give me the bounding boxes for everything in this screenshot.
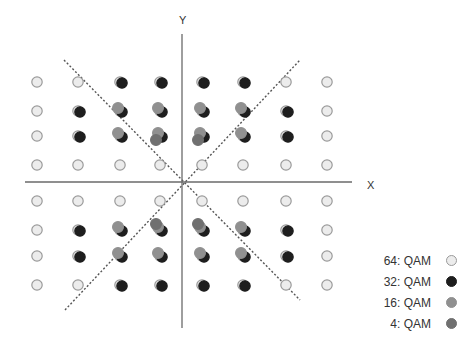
y-axis-label: Y [179,14,186,26]
point-32qam [75,252,85,262]
point-4qam [193,219,204,230]
point-32qam [199,281,209,291]
point-16qam [153,103,164,114]
point-64qam [322,196,332,206]
point-64qam [32,280,42,290]
point-64qam [115,160,125,170]
point-16qam [113,222,124,233]
point-64qam [322,280,332,290]
point-64qam [322,106,332,116]
point-64qam [322,225,332,235]
point-32qam [157,281,167,291]
point-32qam [283,226,293,236]
point-64qam [322,251,332,261]
legend-label: 64: QAM [384,254,431,268]
point-64qam [322,77,332,87]
point-16qam [236,248,247,259]
x-axis-label: X [367,179,374,191]
legend-item-4qam: 4: QAM [355,317,465,333]
point-32qam [283,132,293,142]
point-64qam [281,77,291,87]
point-64qam [281,280,291,290]
point-64qam [197,160,207,170]
point-64qam [73,280,83,290]
point-32qam [283,107,293,117]
point-64qam [32,196,42,206]
point-64qam [155,160,165,170]
point-4qam [151,219,162,230]
point-64qam [281,196,291,206]
point-16qam [195,248,206,259]
legend-item-64qam: 64: QAM [355,254,465,270]
point-32qam [199,78,209,88]
point-32qam [75,107,85,117]
legend-marker-16qam [446,297,457,308]
point-32qam [117,78,127,88]
point-64qam [32,251,42,261]
point-64qam [73,160,83,170]
point-64qam [115,196,125,206]
legend-label: 16: QAM [384,296,431,310]
point-64qam [155,196,165,206]
point-32qam [240,281,250,291]
point-16qam [236,128,247,139]
point-4qam [193,135,204,146]
point-32qam [157,78,167,88]
legend-item-16qam: 16: QAM [355,296,465,312]
legend-label: 4: QAM [390,317,431,331]
point-64qam [238,196,248,206]
point-64qam [32,77,42,87]
constellation-plot [0,0,476,347]
point-64qam [32,225,42,235]
legend-label: 32: QAM [384,275,431,289]
point-64qam [322,131,332,141]
point-4qam [151,135,162,146]
point-64qam [197,196,207,206]
legend-marker-64qam [446,255,457,266]
point-64qam [32,106,42,116]
legend-marker-32qam [446,276,457,287]
point-16qam [113,103,124,114]
point-64qam [73,77,83,87]
point-16qam [236,222,247,233]
legend-item-32qam: 32: QAM [355,275,465,291]
point-64qam [238,160,248,170]
point-64qam [32,160,42,170]
point-32qam [240,78,250,88]
constellation-diagram: Y X 64: QAM 32: QAM 16: QAM 4: QAM [0,0,476,347]
point-32qam [117,281,127,291]
point-16qam [236,103,247,114]
point-64qam [281,160,291,170]
point-16qam [195,103,206,114]
point-64qam [73,196,83,206]
point-64qam [32,131,42,141]
point-16qam [113,248,124,259]
point-16qam [153,248,164,259]
point-64qam [322,160,332,170]
legend-marker-4qam [446,318,457,329]
point-32qam [283,252,293,262]
point-32qam [75,226,85,236]
point-32qam [75,132,85,142]
point-16qam [113,128,124,139]
